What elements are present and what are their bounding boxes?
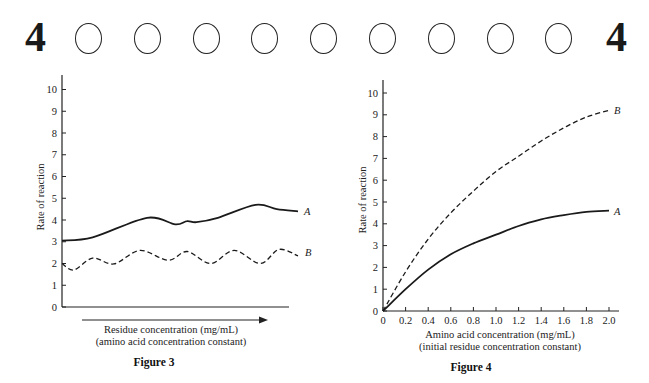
series-b-line	[62, 249, 298, 270]
y-tick-label: 6	[373, 175, 378, 186]
x-tick-label: 0.8	[467, 315, 480, 326]
y-tick-label: 9	[373, 109, 378, 120]
x-tick-label: 0.2	[399, 315, 412, 326]
series-b-line	[383, 110, 609, 311]
figure-caption: Figure 4	[451, 361, 492, 374]
y-tick-label: 0	[52, 302, 57, 313]
x-ticks: 00.20.40.60.81.01.21.41.61.82.0	[380, 307, 615, 326]
series-b-label: B	[305, 247, 312, 258]
y-ticks: 012345678910	[47, 84, 67, 313]
y-tick-label: 2	[52, 258, 57, 269]
x-tick-label: 0.6	[444, 315, 457, 326]
series-a-label: A	[303, 206, 311, 217]
x-axis-sublabel: (amino acid concentration constant)	[96, 336, 247, 348]
y-tick-label: 8	[52, 128, 57, 139]
series-a-line	[62, 205, 298, 241]
x-tick-label: 2.0	[602, 315, 615, 326]
y-tick-label: 5	[373, 197, 378, 208]
y-axis-label: Rate of reaction	[357, 166, 368, 234]
y-tick-label: 7	[52, 149, 57, 160]
figure-caption: Figure 3	[134, 356, 175, 369]
y-tick-label: 1	[373, 284, 378, 295]
x-tick-label: 1.4	[535, 315, 549, 326]
y-tick-label: 8	[373, 131, 378, 142]
x-axis-sublabel: (initial residue concentration constant)	[419, 341, 581, 353]
x-tick-label: 1.8	[580, 315, 593, 326]
x-axis-arrow	[82, 317, 268, 324]
series-b-label: B	[614, 105, 621, 116]
y-tick-label: 10	[368, 88, 379, 99]
x-tick-label: 0.4	[422, 315, 436, 326]
y-tick-label: 9	[52, 106, 57, 117]
y-tick-label: 4	[52, 215, 58, 226]
y-tick-label: 6	[52, 171, 57, 182]
y-tick-label: 5	[52, 193, 57, 204]
y-tick-label: 10	[47, 84, 58, 95]
figure-4: 012345678910 00.20.40.60.81.01.21.41.61.…	[357, 80, 621, 374]
y-tick-label: 2	[373, 262, 378, 273]
x-axis-label: Residue concentration (mg/mL)	[104, 324, 239, 336]
y-tick-label: 1	[52, 280, 57, 291]
x-tick-label: 0	[380, 315, 385, 326]
y-tick-label: 0	[373, 306, 378, 317]
y-tick-label: 3	[52, 236, 57, 247]
y-tick-label: 3	[373, 240, 378, 251]
figures-canvas: 012345678910 A B Rate of reaction Residu…	[0, 0, 649, 383]
y-axis-label: Rate of reaction	[35, 163, 46, 231]
x-tick-label: 1.6	[557, 315, 570, 326]
series-a-label: A	[613, 206, 621, 217]
x-tick-label: 1.2	[512, 315, 525, 326]
series-a-line	[383, 211, 609, 311]
y-tick-label: 7	[373, 153, 378, 164]
figure-3: 012345678910 A B Rate of reaction Residu…	[35, 75, 312, 369]
x-axis-label: Amino acid concentration (mg/mL)	[425, 329, 575, 341]
x-tick-label: 1.0	[489, 315, 502, 326]
y-tick-label: 4	[373, 218, 379, 229]
y-ticks: 012345678910	[368, 88, 388, 317]
